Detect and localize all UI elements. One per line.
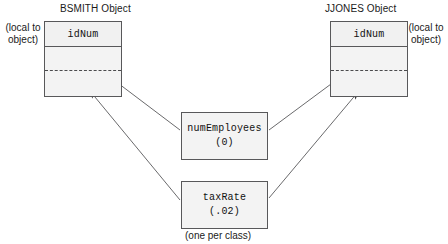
jjones-idnum-label: idNum	[353, 29, 384, 40]
diagram-canvas: BSMITH Object JJONES Object (local to ob…	[0, 0, 448, 244]
local-to-object-note-left-line1: (local to	[2, 22, 44, 34]
taxrate-name: taxRate	[203, 191, 246, 205]
bsmith-object-title: BSMITH Object	[60, 3, 131, 14]
bsmith-dashed-divider	[45, 70, 121, 71]
bsmith-idnum-label: idNum	[67, 29, 98, 40]
jjones-object-title: JJONES Object	[325, 3, 396, 14]
jjones-object-box: idNum	[330, 21, 408, 97]
jjones-dashed-divider	[331, 70, 407, 71]
local-to-object-note-right: (local to object)	[404, 22, 448, 46]
taxrate-value: (.02)	[209, 205, 240, 219]
arrow-taxrate-to-jjones	[269, 92, 358, 198]
numemployees-value: (0)	[215, 136, 234, 150]
local-to-object-note-right-line2: object)	[404, 34, 448, 46]
bsmith-idnum-field: idNum	[45, 22, 121, 47]
local-to-object-note-left-line2: object)	[2, 34, 44, 46]
one-per-class-note: (one per class)	[185, 230, 251, 241]
arrow-taxrate-to-bsmith	[90, 91, 180, 200]
local-to-object-note-left: (local to object)	[2, 22, 44, 46]
local-to-object-note-right-line1: (local to	[404, 22, 448, 34]
jjones-idnum-field: idNum	[331, 22, 407, 47]
bsmith-object-box: idNum	[44, 21, 122, 97]
numemployees-class-variable-box: numEmployees (0)	[181, 112, 268, 160]
numemployees-name: numEmployees	[187, 122, 261, 136]
taxrate-class-variable-box: taxRate (.02)	[181, 181, 268, 229]
